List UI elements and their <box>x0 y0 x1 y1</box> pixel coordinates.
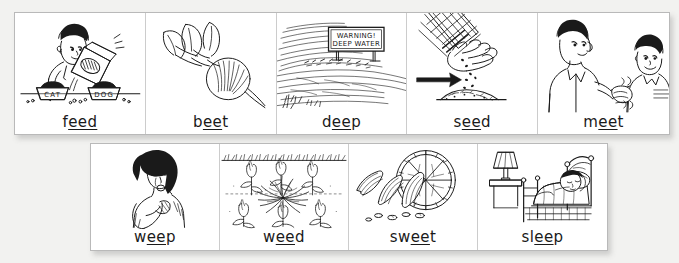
word-label-sweet: sweet <box>349 230 477 250</box>
flashcard-sweet[interactable]: sweet <box>349 144 478 250</box>
flashcard-deep[interactable]: WARNING! DEEP WATER deep <box>277 13 408 134</box>
flashcard-weep[interactable]: weep <box>91 144 220 250</box>
flashcard-meet[interactable]: meet <box>538 13 669 134</box>
illustration-sweet <box>349 144 477 230</box>
word-label-seed: seed <box>407 115 537 134</box>
illustration-weep <box>91 144 219 230</box>
flashcard-feed[interactable]: CAT DOG feed <box>15 13 146 134</box>
word-label-sleep: sleep <box>478 230 607 250</box>
flashcard-sleep[interactable]: sleep <box>478 144 607 250</box>
illustration-beet <box>146 13 276 115</box>
svg-text:CAT: CAT <box>44 91 61 99</box>
word-label-deep: deep <box>277 115 407 134</box>
illustration-sleep <box>478 144 607 230</box>
flashcard-seed[interactable]: seed <box>407 13 538 134</box>
word-label-feed: feed <box>15 115 145 134</box>
svg-text:WARNING!: WARNING! <box>336 32 375 40</box>
illustration-weed <box>220 144 348 230</box>
word-label-weed: weed <box>220 230 348 250</box>
flashcard-weed[interactable]: weed <box>220 144 349 250</box>
svg-text:DOG: DOG <box>94 91 114 99</box>
word-label-weep: weep <box>91 230 219 250</box>
flashcard-strip-bottom: weep <box>90 143 608 251</box>
illustration-seed <box>407 13 537 115</box>
illustration-deep: WARNING! DEEP WATER <box>277 13 407 115</box>
illustration-meet <box>538 13 669 115</box>
word-label-meet: meet <box>538 115 669 134</box>
flashcard-beet[interactable]: beet <box>146 13 277 134</box>
word-label-beet: beet <box>146 115 276 134</box>
illustration-feed: CAT DOG <box>15 13 145 115</box>
flashcard-strip-top: CAT DOG feed <box>14 12 670 135</box>
svg-text:DEEP WATER: DEEP WATER <box>332 40 380 48</box>
